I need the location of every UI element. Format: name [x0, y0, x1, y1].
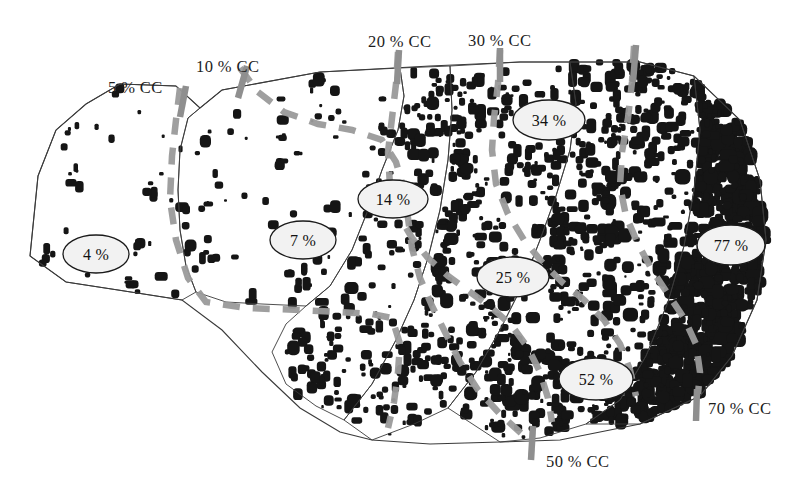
canopy-dot	[702, 131, 710, 138]
canopy-dot	[483, 349, 495, 356]
canopy-dot	[616, 151, 621, 159]
canopy-dot	[682, 373, 693, 388]
canopy-dot	[360, 364, 366, 371]
canopy-dot	[568, 310, 571, 313]
canopy-dot	[68, 172, 72, 175]
canopy-dot	[347, 258, 356, 270]
zone-callout-zone-25: 25 %	[477, 257, 549, 297]
canopy-dot	[171, 290, 179, 299]
canopy-dot	[475, 183, 479, 188]
canopy-dot	[436, 256, 447, 267]
canopy-dot	[626, 346, 630, 351]
canopy-dot	[413, 261, 421, 268]
canopy-dot	[415, 133, 426, 147]
canopy-dot	[559, 265, 568, 275]
canopy-dot	[377, 391, 384, 397]
canopy-dot	[502, 433, 506, 437]
canopy-dot	[587, 330, 594, 337]
canopy-dot	[647, 297, 654, 308]
canopy-dot	[548, 360, 561, 371]
canopy-dot	[327, 332, 335, 342]
canopy-dot	[522, 435, 526, 439]
canopy-dot	[561, 296, 568, 306]
canopy-dot	[744, 175, 749, 180]
canopy-dot	[540, 191, 545, 194]
canopy-dot	[361, 350, 372, 359]
canopy-dot	[456, 120, 466, 130]
canopy-dot	[476, 128, 481, 133]
canopy-dot	[624, 275, 626, 277]
canopy-dot	[130, 280, 139, 288]
zone-callout-zone-7: 7 %	[270, 221, 336, 259]
canopy-dot	[485, 370, 488, 374]
canopy-dot	[681, 305, 688, 309]
canopy-dot	[444, 364, 451, 369]
canopy-dot	[580, 77, 590, 87]
canopy-dot	[631, 137, 644, 145]
zone-callout-zone-34: 34 %	[513, 100, 585, 140]
canopy-dot	[466, 323, 478, 336]
canopy-dot	[277, 115, 289, 125]
canopy-dot	[449, 343, 459, 350]
canopy-dot	[592, 404, 595, 407]
canopy-dot	[606, 82, 618, 92]
canopy-dot	[65, 130, 71, 135]
canopy-dot	[687, 239, 694, 247]
canopy-dot	[508, 141, 516, 148]
canopy-dot	[200, 135, 211, 147]
canopy-dot	[448, 326, 455, 333]
canopy-dot	[403, 421, 406, 426]
canopy-dot	[531, 166, 542, 176]
canopy-dot	[511, 312, 521, 324]
zone-percent-label: 25 %	[496, 269, 531, 286]
canopy-dot	[553, 241, 564, 250]
canopy-dot	[668, 357, 683, 369]
canopy-dot	[281, 159, 289, 164]
canopy-dot	[721, 318, 735, 326]
canopy-dot	[430, 374, 442, 386]
canopy-dot	[578, 178, 587, 187]
canopy-dot	[524, 165, 531, 177]
canopy-dot	[456, 230, 460, 236]
cc-label-cc-50: 50 % CC	[546, 452, 609, 472]
canopy-dot	[307, 381, 318, 393]
canopy-dot	[410, 365, 415, 372]
canopy-dot	[431, 355, 441, 365]
canopy-dot	[203, 250, 209, 255]
canopy-dot	[512, 86, 520, 92]
canopy-dot	[337, 405, 342, 409]
canopy-dot	[727, 334, 738, 343]
canopy-dot	[408, 330, 415, 336]
canopy-dot	[674, 289, 680, 298]
canopy-dot	[453, 143, 456, 147]
canopy-dot	[540, 399, 543, 403]
canopy-dot	[463, 91, 467, 94]
canopy-dot	[330, 86, 340, 96]
canopy-dot	[466, 175, 470, 177]
canopy-dot	[614, 87, 618, 90]
canopy-dot	[227, 128, 234, 135]
canopy-dot	[368, 359, 372, 364]
canopy-dot	[578, 406, 585, 412]
canopy-dot	[142, 188, 151, 196]
canopy-dot	[654, 205, 658, 210]
canopy-dot	[746, 215, 750, 220]
canopy-dot	[664, 234, 668, 241]
canopy-dot	[451, 200, 459, 212]
canopy-dot	[439, 134, 442, 137]
canopy-dot	[452, 159, 456, 165]
canopy-dot	[476, 241, 485, 248]
canopy-dot	[497, 374, 506, 386]
canopy-dot	[621, 124, 626, 131]
canopy-dot	[598, 137, 604, 142]
canopy-dot	[365, 318, 373, 325]
canopy-dot	[522, 391, 526, 395]
canopy-dot	[469, 358, 475, 364]
canopy-dot	[426, 123, 435, 135]
canopy-dot	[564, 228, 570, 236]
canopy-dot	[515, 195, 522, 206]
canopy-dot	[334, 377, 341, 387]
canopy-dot	[668, 146, 675, 154]
canopy-dot	[370, 145, 376, 150]
canopy-dot	[459, 294, 466, 302]
